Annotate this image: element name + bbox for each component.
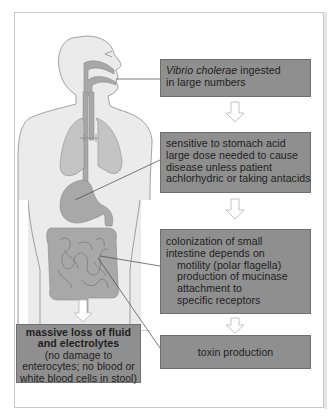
flow-arrow-1-icon xyxy=(226,102,244,122)
step-colonization-box: colonization of small intestine depends … xyxy=(160,229,311,314)
step-toxin-box: toxin production xyxy=(160,335,311,369)
organism-name: Vibrio cholerae xyxy=(166,64,237,76)
flow-arrow-3-icon xyxy=(226,318,244,333)
flow-arrow-2-icon xyxy=(226,199,244,219)
trachea-icon xyxy=(89,92,94,140)
step-stomach-box: sensitive to stomach acid large dose nee… xyxy=(160,132,311,193)
outcome-box: massive loss of fluid and electrolytes (… xyxy=(16,324,141,383)
step-ingestion-box: Vibrio cholerae ingested in large number… xyxy=(160,59,311,97)
